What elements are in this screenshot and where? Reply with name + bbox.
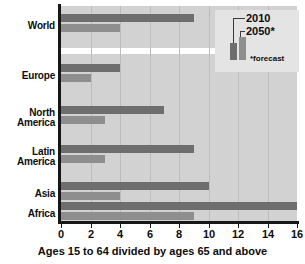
x-tick-label-4: 4 — [117, 228, 123, 240]
population-ratio-bar-chart: WorldEuropeNorth AmericaLatin AmericaAsi… — [0, 0, 305, 264]
chart-legend: 2010 2050* *forecast — [215, 10, 299, 72]
bar-europe-2050 — [61, 74, 91, 82]
bar-asia-2050 — [61, 192, 120, 200]
x-tick-label-0: 0 — [58, 228, 64, 240]
category-label-world: World — [28, 21, 55, 32]
category-label-africa: Africa — [28, 209, 55, 220]
legend-label-2050: 2050* — [246, 25, 275, 37]
x-tick-label-16: 16 — [291, 228, 303, 240]
category-label-latin-america: Latin America — [17, 147, 55, 168]
legend-leader-stem-2010 — [233, 18, 234, 43]
x-tick-label-2: 2 — [88, 228, 94, 240]
legend-label-2010: 2010 — [246, 12, 270, 24]
category-axis-labels: WorldEuropeNorth AmericaLatin AmericaAsi… — [0, 0, 58, 222]
gridline-10 — [209, 6, 210, 222]
bar-asia-2010 — [61, 182, 209, 190]
x-tick-label-12: 12 — [232, 228, 244, 240]
category-label-north-america: North America — [17, 108, 55, 129]
legend-footnote: *forecast — [250, 54, 284, 63]
x-tick-label-8: 8 — [176, 228, 182, 240]
bar-latin-america-2050 — [61, 155, 105, 163]
bar-latin-america-2010 — [61, 145, 194, 153]
bar-north-america-2050 — [61, 116, 105, 124]
bar-africa-2050 — [61, 212, 194, 220]
bar-africa-2010 — [61, 202, 297, 210]
bar-world-2050 — [61, 24, 120, 32]
legend-leader-line-2010 — [233, 18, 245, 19]
bar-europe-2010 — [61, 64, 120, 72]
y-axis-line — [58, 4, 61, 224]
bar-world-2010 — [61, 14, 194, 22]
x-tick-label-6: 6 — [147, 228, 153, 240]
x-tick-label-14: 14 — [262, 228, 274, 240]
category-label-europe: Europe — [22, 71, 55, 82]
legend-swatch-2050 — [239, 37, 246, 60]
x-tick-label-10: 10 — [203, 228, 215, 240]
category-label-asia: Asia — [35, 189, 55, 200]
bar-north-america-2010 — [61, 106, 164, 114]
legend-swatch-2010 — [230, 43, 237, 60]
x-axis-caption: Ages 15 to 64 divided by ages 65 and abo… — [0, 245, 305, 257]
